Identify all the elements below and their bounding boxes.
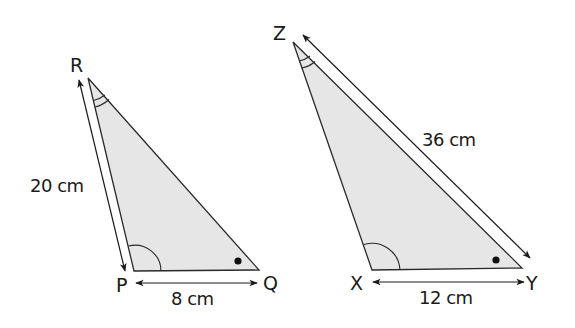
side-length-zy: 36 cm xyxy=(422,129,476,150)
side-length-pq: 8 cm xyxy=(171,288,214,309)
triangle-xyz: Z X Y 36 cm 12 cm xyxy=(273,22,538,308)
vertex-label-p: P xyxy=(116,274,127,296)
angle-mark-q-dot xyxy=(234,257,241,264)
similar-triangles-diagram: R P Q 20 cm 8 cm Z X Y 36 cm 12 cm xyxy=(0,0,575,328)
side-length-xy: 12 cm xyxy=(419,287,473,308)
angle-mark-y-dot xyxy=(492,256,499,263)
triangle-xyz-shape xyxy=(293,42,522,270)
triangle-pqr-shape xyxy=(88,78,259,271)
triangle-pqr: R P Q 20 cm 8 cm xyxy=(30,54,278,309)
vertex-label-r: R xyxy=(70,54,83,76)
side-length-rp: 20 cm xyxy=(30,175,84,196)
vertex-label-y: Y xyxy=(525,272,538,294)
vertex-label-q: Q xyxy=(263,272,278,294)
vertex-label-x: X xyxy=(350,272,363,294)
vertex-label-z: Z xyxy=(273,22,286,44)
